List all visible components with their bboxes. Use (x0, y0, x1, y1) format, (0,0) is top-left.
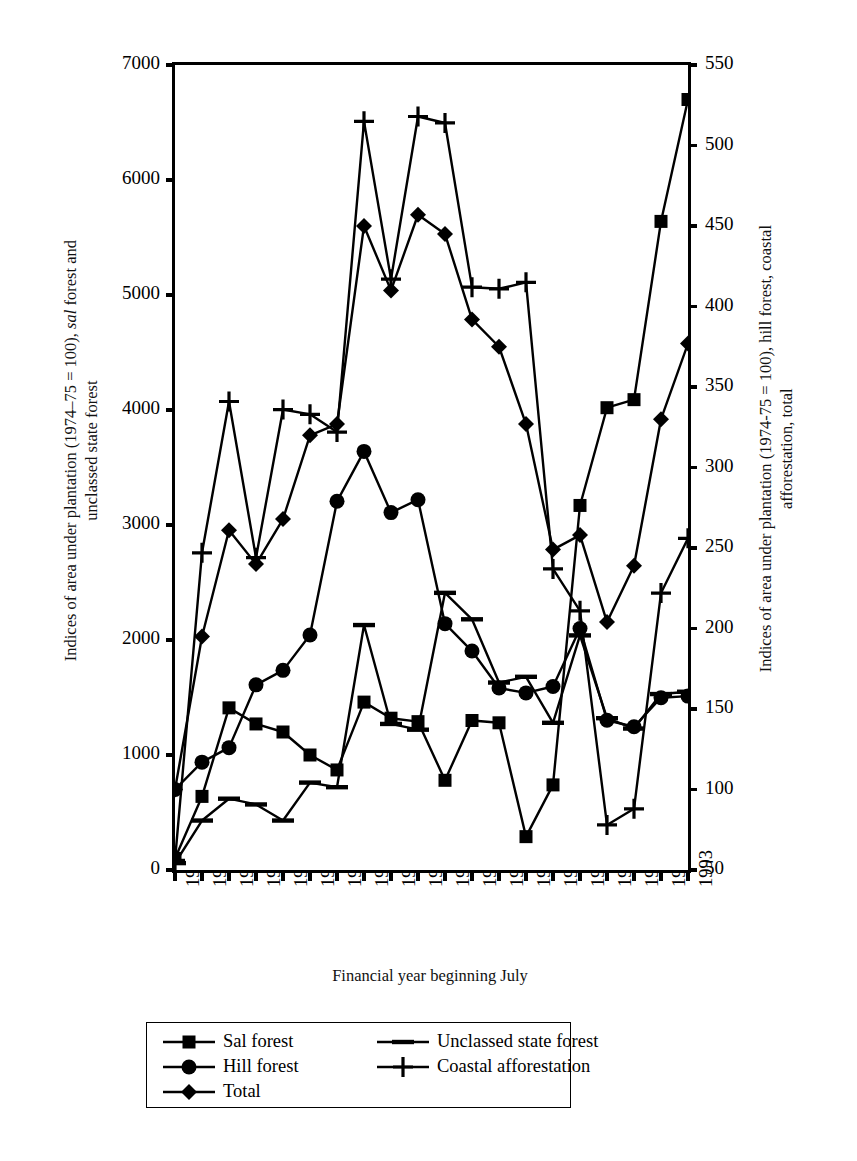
data-point-marker (410, 207, 426, 223)
y-tick-label-left: 7000 (90, 52, 160, 74)
legend-key-circle-icon (161, 1056, 217, 1078)
data-point-marker (384, 505, 399, 520)
legend-key-dash-icon (375, 1031, 431, 1053)
y-tick-label-right: 550 (705, 52, 775, 74)
figure-container: Indices of area under plantation (1974–7… (0, 0, 857, 1161)
data-point-marker (300, 404, 320, 424)
y-tick-label-left: 5000 (90, 282, 160, 304)
legend-key-plus-icon (375, 1056, 431, 1078)
y-axis-right-title-line2: afforestation, total (777, 89, 798, 809)
data-point-marker (304, 749, 317, 762)
legend-item-total[interactable]: Total (161, 1079, 299, 1104)
series-sal-forest (175, 93, 688, 865)
series-line (175, 215, 688, 790)
plot-area (172, 62, 691, 873)
data-point-marker (573, 621, 588, 636)
y-axis-left-title-part1: Indices of area under plantation (1974–7… (61, 329, 80, 661)
data-point-marker (597, 815, 617, 835)
data-point-marker (383, 282, 399, 298)
data-point-marker (380, 722, 402, 726)
data-point-marker (547, 778, 560, 791)
data-point-marker (326, 785, 348, 789)
data-point-marker (543, 559, 563, 579)
legend-label: Total (223, 1081, 261, 1102)
data-point-marker (542, 721, 564, 725)
y-tick-label-left: 0 (90, 857, 160, 879)
plot-svg (175, 65, 688, 870)
y-axis-left-title: Indices of area under plantation (1974–7… (61, 91, 102, 811)
legend-column-left: Sal forest Hill forest Total (161, 1029, 299, 1104)
data-point-marker (520, 830, 533, 843)
y-tick-label-left: 1000 (90, 742, 160, 764)
y-tick-label-right: 350 (705, 374, 775, 396)
y-tick-label-right: 450 (705, 213, 775, 235)
data-point-marker (223, 701, 236, 714)
data-point-marker (277, 726, 290, 739)
data-point-marker (492, 681, 507, 696)
legend-label: Unclassed state forest (437, 1031, 598, 1052)
data-point-marker (601, 401, 614, 414)
data-point-marker (682, 93, 689, 106)
data-point-marker (357, 444, 372, 459)
data-point-marker (183, 1035, 196, 1048)
data-point-marker (678, 528, 688, 548)
data-point-marker (680, 336, 688, 352)
y-axis-left-title-line2: unclassed state forest (82, 91, 103, 811)
y-tick-label-right: 300 (705, 455, 775, 477)
series-total (175, 207, 688, 798)
legend-column-right: Unclassed state forest Coastal afforesta… (375, 1029, 598, 1079)
data-point-marker (356, 218, 372, 234)
data-point-marker (516, 272, 536, 292)
data-point-marker (273, 400, 293, 420)
data-point-marker (302, 427, 318, 443)
legend-item-unclassed-state-forest[interactable]: Unclassed state forest (375, 1029, 598, 1054)
data-point-marker (574, 499, 587, 512)
data-point-marker (599, 614, 615, 630)
data-point-marker (624, 799, 644, 819)
legend-key-square-icon (161, 1031, 217, 1053)
data-point-marker (330, 494, 345, 509)
y-tick-label-left: 4000 (90, 397, 160, 419)
data-point-marker (438, 616, 453, 631)
legend-label: Sal forest (223, 1031, 293, 1052)
x-tick-label: 1993 (696, 850, 717, 887)
y-axis-right-title-line1: Indices of area under plantation (1974-7… (756, 225, 775, 672)
data-point-marker (303, 627, 318, 642)
legend-label: Hill forest (223, 1056, 299, 1077)
data-point-marker (358, 696, 371, 709)
data-point-marker (219, 391, 239, 411)
data-point-marker (489, 279, 509, 299)
data-point-marker (626, 558, 642, 574)
legend-key-diamond-icon (161, 1081, 217, 1103)
data-point-marker (222, 740, 237, 755)
legend-item-coastal-afforestation[interactable]: Coastal afforestation (375, 1054, 598, 1079)
y-tick-label-right: 400 (705, 294, 775, 316)
data-point-marker (191, 818, 213, 822)
data-point-marker (654, 690, 669, 705)
data-point-marker (196, 790, 209, 803)
data-point-marker (392, 1039, 414, 1043)
data-point-marker (181, 1084, 197, 1100)
data-point-marker (628, 393, 641, 406)
data-point-marker (655, 215, 668, 228)
y-tick-label-right: 100 (705, 777, 775, 799)
legend-item-hill-forest[interactable]: Hill forest (161, 1054, 299, 1079)
data-point-marker (572, 527, 588, 543)
data-point-marker (545, 542, 561, 558)
data-point-marker (275, 511, 291, 527)
data-point-marker (546, 679, 561, 694)
y-tick-label-left: 3000 (90, 512, 160, 534)
data-point-marker (250, 717, 263, 730)
data-point-marker (519, 685, 534, 700)
data-point-marker (600, 713, 615, 728)
data-point-marker (518, 416, 534, 432)
data-point-marker (354, 111, 374, 131)
legend: Sal forest Hill forest Total Unclassed s… (146, 1022, 571, 1108)
data-point-marker (407, 728, 429, 732)
legend-item-sal-forest[interactable]: Sal forest (161, 1029, 299, 1054)
y-tick-label-right: 500 (705, 133, 775, 155)
data-point-marker (218, 797, 240, 801)
data-point-marker (435, 113, 455, 133)
data-point-marker (570, 601, 590, 621)
data-point-marker (249, 677, 264, 692)
